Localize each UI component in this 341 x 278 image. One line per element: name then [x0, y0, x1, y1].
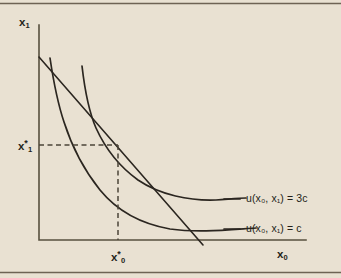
axis-lines: [39, 25, 306, 240]
indifference-curve-plot: [0, 0, 341, 278]
x-axis-label-sub: 0: [283, 253, 287, 262]
figure-container: x1 x0 x*1 x*0 u(x₀, x₁) = 3c u(x₀, x₁) =…: [0, 0, 341, 278]
legend-label-3c: u(x₀, x₁) = 3c: [246, 193, 308, 204]
indifference-curve-c: [50, 58, 256, 231]
x-axis-label: x0: [277, 249, 288, 261]
y-tick-sub: 1: [28, 145, 32, 154]
x-tick-sub: 0: [121, 256, 125, 265]
y-axis-label-sub: 1: [25, 21, 29, 30]
y-tick-label-optimal: x*1: [18, 138, 32, 152]
budget-line: [39, 57, 203, 245]
legend-label-c: u(x₀, x₁) = c: [246, 223, 302, 234]
indifference-curve-3c: [82, 66, 246, 200]
x-tick-label-optimal: x*0: [111, 249, 125, 263]
y-axis-label: x1: [19, 17, 30, 29]
